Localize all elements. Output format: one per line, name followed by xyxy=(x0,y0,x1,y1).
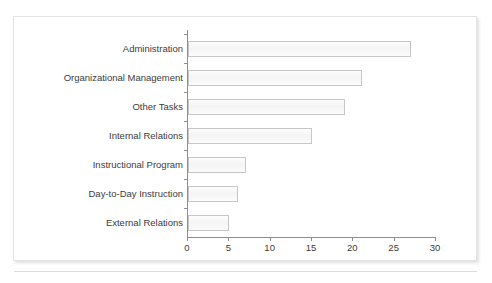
category-label: Organizational Management xyxy=(14,73,183,83)
category-label: External Relations xyxy=(14,218,183,228)
caption-divider xyxy=(14,271,477,272)
y-axis-tick xyxy=(184,63,188,64)
x-axis-tick xyxy=(187,237,188,241)
category-label: Day-to-Day Instruction xyxy=(14,189,183,199)
category-label: Other Tasks xyxy=(14,102,183,112)
x-axis-tick xyxy=(270,237,271,241)
bar xyxy=(188,157,246,173)
category-label: Internal Relations xyxy=(14,131,183,141)
cut-off-heading-sliver xyxy=(14,0,444,2)
y-axis-tick-top xyxy=(184,34,188,35)
y-axis-tick xyxy=(184,208,188,209)
bar-chart: AdministrationOrganizational ManagementO… xyxy=(14,17,478,262)
x-axis-tick xyxy=(311,237,312,241)
y-axis-tick xyxy=(184,150,188,151)
category-label: Administration xyxy=(14,44,183,54)
category-label: Instructional Program xyxy=(14,160,183,170)
cut-off-source-caption xyxy=(16,274,456,283)
x-axis-tick-label: 25 xyxy=(381,242,407,253)
x-axis-tick xyxy=(352,237,353,241)
bar xyxy=(188,186,238,202)
category-axis-labels: AdministrationOrganizational ManagementO… xyxy=(14,34,183,237)
y-axis-tick xyxy=(184,92,188,93)
y-axis-tick xyxy=(184,121,188,122)
x-axis-tick-label: 0 xyxy=(174,242,200,253)
bar xyxy=(188,41,411,57)
x-axis-origin-top-tick xyxy=(187,30,188,34)
x-axis-tick-label: 15 xyxy=(298,242,324,253)
chart-panel: AdministrationOrganizational ManagementO… xyxy=(13,16,477,261)
bar xyxy=(188,215,229,231)
bar xyxy=(188,99,345,115)
plot-area: 051015202530 xyxy=(187,34,437,237)
bar xyxy=(188,70,362,86)
x-axis-tick xyxy=(228,237,229,241)
x-axis-tick-label: 10 xyxy=(257,242,283,253)
figure-page: AdministrationOrganizational ManagementO… xyxy=(0,0,492,283)
x-axis-tick-label: 30 xyxy=(422,242,448,253)
y-axis-tick xyxy=(184,179,188,180)
x-axis-tick-label: 20 xyxy=(339,242,365,253)
bar xyxy=(188,128,312,144)
x-axis-tick xyxy=(435,237,436,241)
x-axis-tick-label: 5 xyxy=(215,242,241,253)
x-axis-tick xyxy=(394,237,395,241)
